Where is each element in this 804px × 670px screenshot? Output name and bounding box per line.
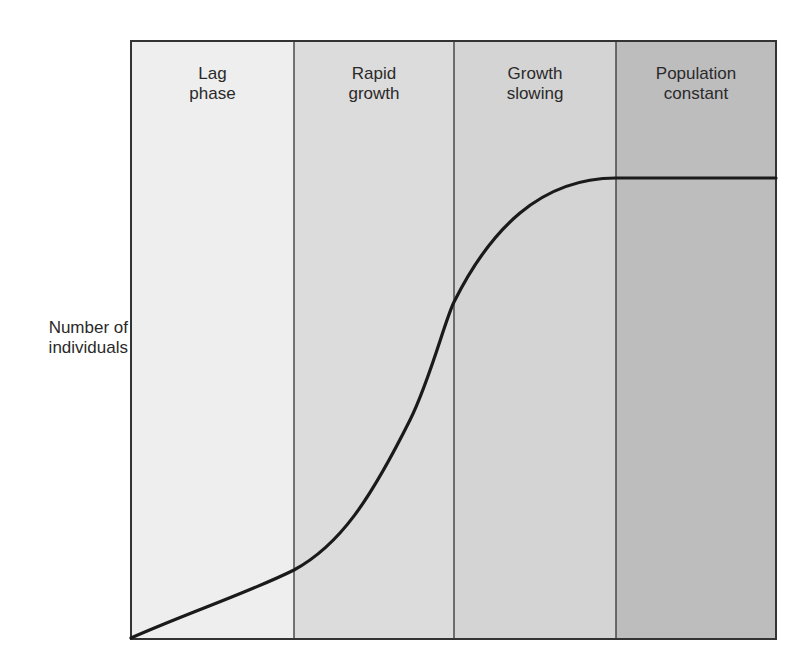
region-lag-phase xyxy=(131,41,294,639)
phase-label-growth-slowing: Growth slowing xyxy=(454,64,616,104)
region-growth-slowing xyxy=(454,41,616,639)
y-axis-label: Number of individuals xyxy=(10,318,128,358)
phase-label-population-constant: Population constant xyxy=(616,64,776,104)
phase-label-lag: Lag phase xyxy=(131,64,294,104)
region-population-constant xyxy=(616,41,776,639)
phase-label-rapid-growth: Rapid growth xyxy=(294,64,454,104)
region-rapid-growth xyxy=(294,41,454,639)
